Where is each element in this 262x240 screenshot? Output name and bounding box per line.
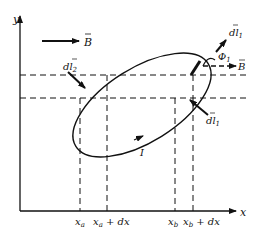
dl1-vector-lower: dl1 [190, 100, 220, 128]
tick-xa-dx: xa + dx [93, 216, 130, 229]
dl2-vector: dl2 [63, 59, 85, 88]
tick-xb-dx: xb + dx [183, 216, 220, 229]
y-axis-label: y [12, 13, 20, 26]
vertical-dashed-lines [80, 75, 193, 211]
x-tick-labels: xa xa + dx xb xb + dx [75, 216, 220, 229]
x-axis-label: x [240, 206, 247, 219]
angle-phi1: Φ1 B [203, 51, 245, 72]
dl2-label: dl2 [63, 61, 78, 74]
current-loop-diagram: y x B I dl2 dl1 Φ1 [0, 0, 262, 240]
tick-xa: xa [75, 216, 85, 229]
current-label: I [139, 147, 145, 158]
phi1-label: Φ1 [218, 51, 231, 64]
current-arrow: I [134, 136, 145, 158]
dl1-vector-upper: dl1 [216, 25, 243, 52]
dl1-lower-label: dl1 [206, 115, 220, 128]
dl1-segment [191, 61, 200, 75]
field-arrow-B: B [42, 34, 92, 49]
dl1-upper-label: dl1 [229, 27, 243, 40]
horizontal-dashed-lines [20, 75, 250, 98]
B-label: B [83, 36, 92, 49]
B-small-label: B [237, 61, 245, 72]
tick-xb: xb [168, 216, 179, 229]
